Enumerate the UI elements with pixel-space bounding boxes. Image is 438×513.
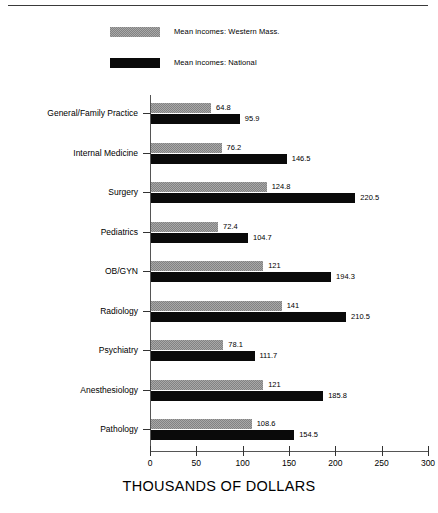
bar-national bbox=[151, 351, 255, 361]
bar-western-mass bbox=[151, 301, 282, 311]
bar-national bbox=[151, 114, 240, 124]
bar-national bbox=[151, 312, 346, 322]
x-axis-tick-label: 0 bbox=[130, 458, 170, 468]
y-axis-category-label: Radiology bbox=[8, 306, 138, 316]
x-axis-tick-label: 50 bbox=[176, 458, 216, 468]
bar-western-mass bbox=[151, 340, 223, 350]
bar-value-western-mass: 124.8 bbox=[272, 182, 291, 192]
bar-value-national: 194.3 bbox=[336, 272, 355, 282]
bar-national bbox=[151, 272, 331, 282]
x-axis-tick-label: 250 bbox=[362, 458, 402, 468]
bar-western-mass bbox=[151, 261, 263, 271]
y-axis-category-label: General/Family Practice bbox=[8, 108, 138, 118]
x-axis-tick bbox=[243, 446, 244, 456]
y-axis-category-label: Pathology bbox=[8, 424, 138, 434]
y-axis-tick bbox=[143, 390, 151, 391]
x-axis-tick bbox=[428, 446, 429, 456]
bar-value-national: 111.7 bbox=[260, 351, 278, 361]
y-axis-tick bbox=[143, 429, 151, 430]
y-axis-category-label: Psychiatry bbox=[8, 345, 138, 355]
bar-value-national: 104.7 bbox=[253, 233, 272, 243]
x-axis-title: THOUSANDS OF DOLLARS bbox=[0, 478, 438, 494]
bar-value-western-mass: 121 bbox=[268, 380, 281, 390]
bar-national bbox=[151, 154, 287, 164]
bar-national bbox=[151, 391, 323, 401]
bar-western-mass bbox=[151, 380, 263, 390]
category-label-row: Radiology bbox=[8, 306, 138, 316]
bar-national bbox=[151, 430, 294, 440]
bar-western-mass bbox=[151, 103, 211, 113]
bar-western-mass bbox=[151, 222, 218, 232]
category-label-row: Pathology bbox=[8, 424, 138, 434]
bar-value-national: 210.5 bbox=[351, 312, 370, 322]
category-label-row: Internal Medicine bbox=[8, 148, 138, 158]
bar-value-western-mass: 78.1 bbox=[228, 340, 243, 350]
bar-chart-plot: 050100150200250300General/Family Practic… bbox=[0, 0, 438, 513]
y-axis-category-label: Surgery bbox=[8, 187, 138, 197]
bar-western-mass bbox=[151, 182, 267, 192]
bar-value-western-mass: 64.8 bbox=[216, 103, 231, 113]
y-axis-tick bbox=[143, 271, 151, 272]
category-label-row: Pediatrics bbox=[8, 227, 138, 237]
y-axis-tick bbox=[143, 232, 151, 233]
category-label-row: Psychiatry bbox=[8, 345, 138, 355]
bar-western-mass bbox=[151, 419, 252, 429]
bar-value-national: 185.8 bbox=[328, 391, 347, 401]
bar-value-western-mass: 108.6 bbox=[257, 419, 276, 429]
x-axis-tick bbox=[382, 446, 383, 456]
y-axis-tick bbox=[143, 153, 151, 154]
bar-value-western-mass: 141 bbox=[287, 301, 300, 311]
bar-value-western-mass: 76.2 bbox=[227, 143, 242, 153]
category-label-row: Surgery bbox=[8, 187, 138, 197]
x-axis-tick-label: 200 bbox=[315, 458, 355, 468]
x-axis-tick-label: 150 bbox=[269, 458, 309, 468]
x-axis-tick bbox=[289, 446, 290, 456]
category-label-row: OB/GYN bbox=[8, 266, 138, 276]
y-axis-category-label: Anesthesiology bbox=[8, 385, 138, 395]
bar-value-western-mass: 72.4 bbox=[223, 222, 238, 232]
y-axis-tick bbox=[143, 192, 151, 193]
y-axis-category-label: Pediatrics bbox=[8, 227, 138, 237]
category-label-row: General/Family Practice bbox=[8, 108, 138, 118]
bar-national bbox=[151, 193, 355, 203]
bar-national bbox=[151, 233, 248, 243]
bar-western-mass bbox=[151, 143, 222, 153]
bar-value-national: 154.5 bbox=[299, 430, 318, 440]
x-axis-tick bbox=[150, 446, 151, 456]
bar-value-national: 220.5 bbox=[360, 193, 379, 203]
x-axis-tick bbox=[196, 446, 197, 456]
x-axis-tick-label: 300 bbox=[408, 458, 438, 468]
y-axis-tick bbox=[143, 350, 151, 351]
y-axis-tick bbox=[143, 113, 151, 114]
category-label-row: Anesthesiology bbox=[8, 385, 138, 395]
y-axis-category-label: Internal Medicine bbox=[8, 148, 138, 158]
bar-value-western-mass: 121 bbox=[268, 261, 281, 271]
x-axis-tick-label: 100 bbox=[223, 458, 263, 468]
y-axis-category-label: OB/GYN bbox=[8, 266, 138, 276]
bar-value-national: 95.9 bbox=[245, 114, 260, 124]
x-axis-tick bbox=[335, 446, 336, 456]
bar-value-national: 146.5 bbox=[292, 154, 311, 164]
y-axis-tick bbox=[143, 311, 151, 312]
